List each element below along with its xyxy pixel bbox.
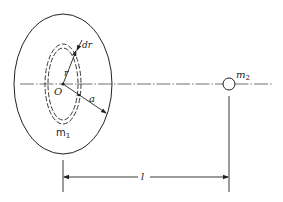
label-mass-m2: m2 <box>236 69 250 82</box>
diagram-canvas: dr r O a m1 m2 l <box>0 0 283 202</box>
gravitation-disk-diagram: dr r O a m1 m2 l <box>0 0 283 202</box>
label-dr: dr <box>82 40 93 50</box>
point-mass-m2 <box>223 78 235 90</box>
label-r: r <box>64 68 69 78</box>
label-radius-a: a <box>89 93 95 104</box>
label-mass-m1: m1 <box>56 127 70 140</box>
radius-a-arrow <box>63 84 106 113</box>
ring-intersection-point <box>78 94 81 97</box>
label-distance-l: l <box>141 171 144 182</box>
label-center-O: O <box>54 86 62 97</box>
